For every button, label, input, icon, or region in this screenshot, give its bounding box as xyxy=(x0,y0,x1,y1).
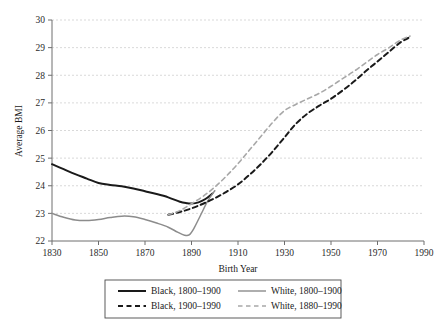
x-tick-label-1950: 1950 xyxy=(322,248,341,258)
y-tick-label-29: 29 xyxy=(36,43,46,53)
y-tick-label-28: 28 xyxy=(36,71,46,81)
x-tick-label-1830: 1830 xyxy=(43,248,62,258)
y-tick-label-25: 25 xyxy=(36,154,46,164)
x-tick-label-1970: 1970 xyxy=(368,248,387,258)
x-tick-label-1870: 1870 xyxy=(136,248,155,258)
figure-container: 222324252627282930 183018501870189019101… xyxy=(0,0,439,333)
y-tick-label-26: 26 xyxy=(36,126,46,136)
legend-label-4: White, 1880–1990 xyxy=(271,301,342,311)
x-tick-label-1910: 1910 xyxy=(229,248,248,258)
y-tick-label-24: 24 xyxy=(36,181,46,191)
x-tick-label-1990: 1990 xyxy=(415,248,434,258)
y-tick-label-27: 27 xyxy=(36,98,46,108)
x-tick-label-1850: 1850 xyxy=(89,248,108,258)
y-tick-label-30: 30 xyxy=(36,15,46,25)
x-axis-title: Birth Year xyxy=(218,264,258,274)
x-tick-label-1890: 1890 xyxy=(182,248,201,258)
y-tick-label-23: 23 xyxy=(36,209,46,219)
legend-label-2: White, 1800–1900 xyxy=(271,286,342,296)
legend-label-1: Black, 1800–1900 xyxy=(151,286,221,296)
x-tick-label-1930: 1930 xyxy=(275,248,294,258)
y-tick-label-22: 22 xyxy=(36,236,46,246)
legend: Black, 1800–1900White, 1800–1900Black, 1… xyxy=(105,280,342,318)
y-axis-title: Average BMI xyxy=(14,105,24,157)
legend-label-3: Black, 1900–1990 xyxy=(151,301,221,311)
bmi-line-chart: 222324252627282930 183018501870189019101… xyxy=(0,0,439,333)
